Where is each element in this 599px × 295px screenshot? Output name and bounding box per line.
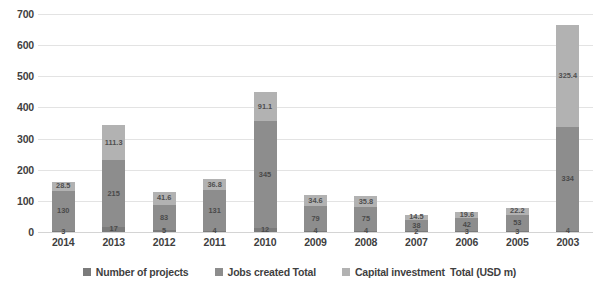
- bar-segment-value-label: 28.5: [56, 182, 70, 189]
- x-axis-tick-label: 2005: [492, 236, 542, 248]
- bar-segment-capital[interactable]: 91.1: [254, 92, 277, 120]
- plot-area: 28.51303111.32151741.683536.8131491.1345…: [38, 14, 593, 232]
- bar-segment-value-label: 4: [364, 228, 368, 235]
- x-axis-tick-label: 2014: [38, 236, 88, 248]
- bar-group[interactable]: 35.8754: [354, 196, 377, 232]
- bar-segment-capital[interactable]: 22.2: [506, 208, 529, 215]
- x-axis-tick-label: 2003: [543, 236, 593, 248]
- bar-segment-value-label: 36.8: [207, 181, 221, 188]
- y-axis-tick-label: 300: [0, 133, 34, 145]
- legend-item[interactable]: Capital investment Total (USD m): [342, 266, 516, 278]
- bars-layer: 28.51303111.32151741.683536.8131491.1345…: [38, 14, 593, 232]
- bar-segment-value-label: 17: [110, 226, 118, 233]
- bar-segment-projects[interactable]: 17: [102, 227, 125, 232]
- legend-swatch-icon: [215, 268, 223, 276]
- bar-segment-value-label: 215: [108, 190, 120, 197]
- bar-segment-projects[interactable]: 3: [52, 231, 75, 232]
- x-axis-tick-label: 2009: [290, 236, 340, 248]
- bar-segment-projects[interactable]: 4: [354, 231, 377, 232]
- bar-segment-projects[interactable]: 2: [405, 231, 428, 232]
- bar-segment-projects[interactable]: 3: [455, 231, 478, 232]
- bar-segment-value-label: 4: [313, 228, 317, 235]
- bar-segment-projects[interactable]: 4: [556, 231, 579, 232]
- bar-group[interactable]: 19.6423: [455, 212, 478, 232]
- x-axis: 2014201320122011201020092008200720062005…: [38, 236, 593, 254]
- x-axis-tick-label: 2008: [341, 236, 391, 248]
- bar-group[interactable]: 14.5382: [405, 215, 428, 232]
- bar-segment-capital[interactable]: 34.6: [304, 195, 327, 206]
- bar-group[interactable]: 28.51303: [52, 182, 75, 232]
- y-axis-tick-label: 400: [0, 101, 34, 113]
- bar-segment-capital[interactable]: 28.5: [52, 182, 75, 191]
- legend-swatch-icon: [83, 268, 91, 276]
- bar-segment-projects[interactable]: 4: [203, 231, 226, 232]
- bar-segment-value-label: 35.8: [359, 198, 373, 205]
- bar-segment-value-label: 345: [259, 171, 271, 178]
- legend-item[interactable]: Jobs created Total: [215, 266, 316, 278]
- bar-segment-value-label: 34.6: [308, 197, 322, 204]
- y-axis-tick-label: 600: [0, 39, 34, 51]
- bar-segment-jobs[interactable]: 131: [203, 190, 226, 231]
- bar-group[interactable]: 325.43344: [556, 25, 579, 232]
- bar-segment-capital[interactable]: 111.3: [102, 125, 125, 160]
- y-axis-tick-label: 700: [0, 8, 34, 20]
- bar-segment-value-label: 4: [566, 228, 570, 235]
- bar-group[interactable]: 111.321517: [102, 125, 125, 232]
- bar-group[interactable]: 91.134512: [254, 92, 277, 232]
- bar-segment-value-label: 5: [162, 228, 166, 235]
- x-axis-tick-label: 2006: [442, 236, 492, 248]
- x-axis-tick-label: 2007: [391, 236, 441, 248]
- bar-group[interactable]: 41.6835: [153, 192, 176, 232]
- bar-segment-value-label: 3: [515, 228, 519, 235]
- bar-segment-projects[interactable]: 5: [153, 230, 176, 232]
- bar-segment-value-label: 12: [261, 226, 269, 233]
- bar-segment-value-label: 41.6: [157, 194, 171, 201]
- x-axis-tick-label: 2011: [189, 236, 239, 248]
- bar-segment-value-label: 75: [362, 215, 370, 222]
- bar-segment-value-label: 325.4: [559, 72, 578, 79]
- bar-segment-capital[interactable]: 35.8: [354, 196, 377, 207]
- legend-label: Jobs created Total: [228, 266, 316, 278]
- bar-segment-value-label: 111.3: [105, 139, 123, 146]
- bar-segment-capital[interactable]: 41.6: [153, 192, 176, 205]
- bar-segment-projects[interactable]: 4: [304, 231, 327, 232]
- bar-segment-projects[interactable]: 12: [254, 228, 277, 232]
- y-axis: 0100200300400500600700: [0, 14, 34, 232]
- bar-segment-jobs[interactable]: 334: [556, 127, 579, 231]
- bar-segment-value-label: 2: [414, 228, 418, 235]
- y-axis-tick-label: 500: [0, 70, 34, 82]
- y-axis-tick-label: 0: [0, 226, 34, 238]
- y-axis-tick-label: 200: [0, 164, 34, 176]
- bar-group[interactable]: 22.2533: [506, 208, 529, 232]
- bar-segment-projects[interactable]: 3: [506, 231, 529, 232]
- bar-segment-value-label: 131: [208, 207, 220, 214]
- chart-legend: Number of projectsJobs created TotalCapi…: [0, 266, 599, 278]
- bar-group[interactable]: 34.6794: [304, 195, 327, 232]
- bar-group[interactable]: 36.81314: [203, 179, 226, 232]
- y-axis-tick-label: 100: [0, 195, 34, 207]
- bar-segment-value-label: 53: [513, 219, 521, 226]
- legend-label: Number of projects: [96, 266, 189, 278]
- stacked-bar-chart: 0100200300400500600700 28.51303111.32151…: [0, 0, 599, 295]
- bar-segment-value-label: 4: [213, 228, 217, 235]
- x-axis-tick-label: 2010: [240, 236, 290, 248]
- legend-label: Capital investment Total (USD m): [355, 266, 516, 278]
- legend-item[interactable]: Number of projects: [83, 266, 189, 278]
- x-axis-tick-label: 2013: [88, 236, 138, 248]
- bar-segment-jobs[interactable]: 130: [52, 191, 75, 231]
- bar-segment-value-label: 91.1: [258, 103, 272, 110]
- bar-segment-value-label: 79: [311, 215, 319, 222]
- legend-swatch-icon: [342, 268, 350, 276]
- bar-segment-value-label: 83: [160, 214, 168, 221]
- bar-segment-value-label: 130: [57, 207, 69, 214]
- bar-segment-capital[interactable]: 36.8: [203, 179, 226, 190]
- bar-segment-value-label: 3: [465, 228, 469, 235]
- bar-segment-jobs[interactable]: 345: [254, 121, 277, 228]
- bar-segment-value-label: 334: [562, 175, 574, 182]
- x-axis-tick-label: 2012: [139, 236, 189, 248]
- bar-segment-capital[interactable]: 325.4: [556, 25, 579, 126]
- bar-segment-jobs[interactable]: 215: [102, 160, 125, 227]
- bar-segment-value-label: 3: [61, 228, 65, 235]
